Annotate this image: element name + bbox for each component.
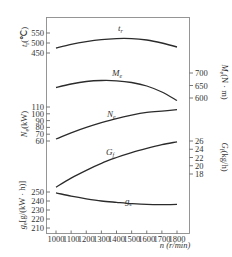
ne-axis-title: Ne(kW)	[19, 111, 30, 138]
gf-curve-label: Gf	[106, 147, 116, 158]
tr-tick-label: 450	[31, 48, 44, 58]
tr-curve	[56, 38, 177, 48]
ge-tick-label: 220	[31, 214, 44, 224]
gf-axis-title: Gf(kg/h)	[219, 143, 230, 172]
engine-characteristic-chart: 100011001200130014001500160017001800 450…	[0, 0, 232, 257]
ge-tick-label: 210	[31, 223, 44, 233]
ge-curve-label: ge	[125, 196, 133, 207]
Me-tick-label: 700	[195, 68, 208, 78]
Me-tick-label: 600	[195, 93, 208, 103]
plot-frame	[47, 18, 190, 234]
ne-curve-label: Ne	[106, 109, 116, 120]
Gf-curve	[56, 142, 177, 187]
x-axis-title: n (r/min)	[160, 240, 191, 250]
me-curve-label: Me	[111, 68, 123, 79]
ge-tick-label: 230	[31, 205, 44, 215]
Me-tick-label: 650	[195, 81, 208, 91]
tr-curve-label: tr	[118, 23, 124, 34]
Gf-tick-label: 26	[195, 136, 204, 146]
me-axis-title: Me(N · m)	[219, 63, 230, 99]
curves	[56, 38, 177, 204]
ge-tick-label: 240	[31, 196, 44, 206]
Me-curve	[56, 80, 177, 100]
ge-tick-label: 250	[31, 187, 44, 197]
tr-tick-label: 500	[31, 38, 44, 48]
tr-tick-label: 550	[31, 28, 44, 38]
tr-axis-title: tr(℃)	[19, 27, 30, 47]
ge-axis-title: ge[g/(kW · h)]	[17, 181, 28, 229]
ge-curve	[56, 193, 177, 205]
Ne-curve	[56, 110, 177, 139]
Ne-tick-label: 110	[32, 102, 44, 112]
